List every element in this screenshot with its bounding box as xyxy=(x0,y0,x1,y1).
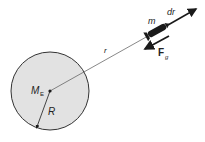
radius-label: R xyxy=(48,106,55,117)
force-subscript: g xyxy=(165,54,169,60)
gravity-diagram: m dr r F g M E R xyxy=(0,0,205,142)
distance-label: r xyxy=(104,46,107,55)
earth-mass-subscript: E xyxy=(40,91,44,97)
mass-label: m xyxy=(148,16,156,26)
force-label: F xyxy=(158,47,164,58)
earth-mass-label: M xyxy=(31,85,40,96)
displacement-label: dr xyxy=(167,7,176,17)
earth-center-dot xyxy=(48,89,51,92)
